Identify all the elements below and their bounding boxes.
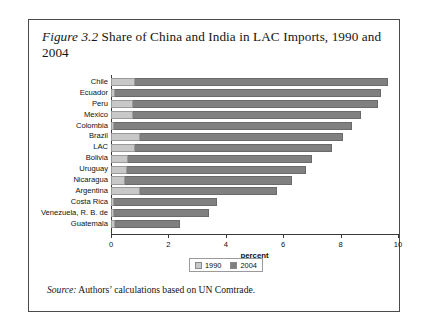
figure-frame: Figure 3.2 Share of China and India in L… [28, 19, 400, 312]
figure-title: Figure 3.2 Share of China and India in L… [42, 29, 390, 60]
plot-area: ChileEcuadorPeruMexicoColombiaBrazilLACB… [29, 75, 401, 260]
legend-swatch [195, 262, 202, 269]
x-axis-tick-label: 4 [216, 240, 236, 249]
bar-segment-1990 [111, 111, 133, 119]
bar-segment-2004 [115, 220, 180, 228]
bar-row [111, 121, 399, 132]
bar-segment-2004 [114, 122, 352, 130]
bar-row [111, 110, 399, 121]
bar-row [111, 186, 399, 197]
legend: 19902004 [189, 258, 263, 272]
bar-segment-1990 [111, 166, 127, 174]
bar-row [111, 99, 399, 110]
bar-stack [111, 111, 361, 119]
category-label: Peru [29, 99, 111, 110]
category-axis-labels: ChileEcuadorPeruMexicoColombiaBrazilLACB… [29, 77, 111, 229]
bar-segment-2004 [135, 78, 388, 86]
bar-segment-1990 [111, 78, 135, 86]
category-label: Bolivia [29, 153, 111, 164]
bar-stack [111, 133, 343, 141]
x-axis-tick [398, 234, 399, 238]
x-axis-tick-label: 8 [331, 240, 351, 249]
legend-label: 2004 [240, 261, 256, 270]
category-label: Chile [29, 77, 111, 88]
category-label: Venezuela, R. B. de [29, 208, 111, 219]
bar-segment-1990 [111, 133, 140, 141]
bar-row [111, 208, 399, 219]
bar-stack [111, 144, 332, 152]
bar-segment-1990 [111, 187, 140, 195]
x-axis-tick [111, 234, 112, 238]
x-axis-tick [226, 234, 227, 238]
bar-stack [111, 198, 217, 206]
bar-segment-2004 [114, 209, 209, 217]
bar-segment-2004 [114, 198, 217, 206]
bar-stack [111, 78, 388, 86]
category-label: LAC [29, 142, 111, 153]
bar-stack [111, 176, 292, 184]
source-text: Authors’ calculations based on UN Comtra… [76, 284, 255, 295]
bar-row [111, 153, 399, 164]
category-label: Brazil [29, 131, 111, 142]
bar-row [111, 77, 399, 88]
bar-segment-2004 [127, 166, 306, 174]
bar-row [111, 131, 399, 142]
category-label: Argentina [29, 186, 111, 197]
x-axis-tick [168, 234, 169, 238]
bar-segment-1990 [111, 144, 135, 152]
bar-row [111, 197, 399, 208]
bar-segment-1990 [111, 176, 125, 184]
x-axis-tick [283, 234, 284, 238]
bar-stack [111, 155, 312, 163]
source-label: Source: [47, 284, 76, 295]
bar-stack [111, 209, 209, 217]
x-axis-tick [341, 234, 342, 238]
x-axis-tick-label: 6 [273, 240, 293, 249]
category-label: Mexico [29, 110, 111, 121]
bar-stack [111, 122, 352, 130]
bar-segment-2004 [128, 155, 312, 163]
category-label: Nicaragua [29, 175, 111, 186]
x-axis-tick-label: 0 [101, 240, 121, 249]
legend-swatch [230, 262, 237, 269]
bar-stack [111, 220, 180, 228]
bar-segment-1990 [111, 155, 128, 163]
bars-canvas [111, 77, 399, 232]
category-label: Ecuador [29, 88, 111, 99]
bar-stack [111, 187, 277, 195]
bar-segment-2004 [133, 111, 361, 119]
bar-row [111, 219, 399, 230]
category-label: Costa Rica [29, 197, 111, 208]
bar-row [111, 88, 399, 99]
bar-segment-2004 [135, 144, 332, 152]
bar-segment-2004 [140, 133, 344, 141]
bar-segment-2004 [115, 89, 380, 97]
legend-label: 1990 [205, 261, 221, 270]
source-note: Source: Authors’ calculations based on U… [47, 284, 383, 296]
bar-segment-2004 [140, 187, 278, 195]
bar-row [111, 164, 399, 175]
figure-number: Figure 3.2 [42, 29, 98, 44]
bar-row [111, 142, 399, 153]
bar-segment-2004 [133, 100, 378, 108]
bar-stack [111, 100, 378, 108]
bar-row [111, 175, 399, 186]
category-label: Uruguay [29, 164, 111, 175]
bar-stack [111, 89, 381, 97]
bar-stack [111, 166, 306, 174]
bar-segment-2004 [125, 176, 291, 184]
x-axis-tick-label: 2 [158, 240, 178, 249]
category-label: Guatemala [29, 219, 111, 230]
bar-segment-1990 [111, 100, 133, 108]
legend-item: 1990 [195, 261, 221, 270]
x-axis-tick-label: 10 [388, 240, 408, 249]
x-axis-line [111, 234, 398, 235]
legend-item: 2004 [230, 261, 256, 270]
category-label: Colombia [29, 121, 111, 132]
